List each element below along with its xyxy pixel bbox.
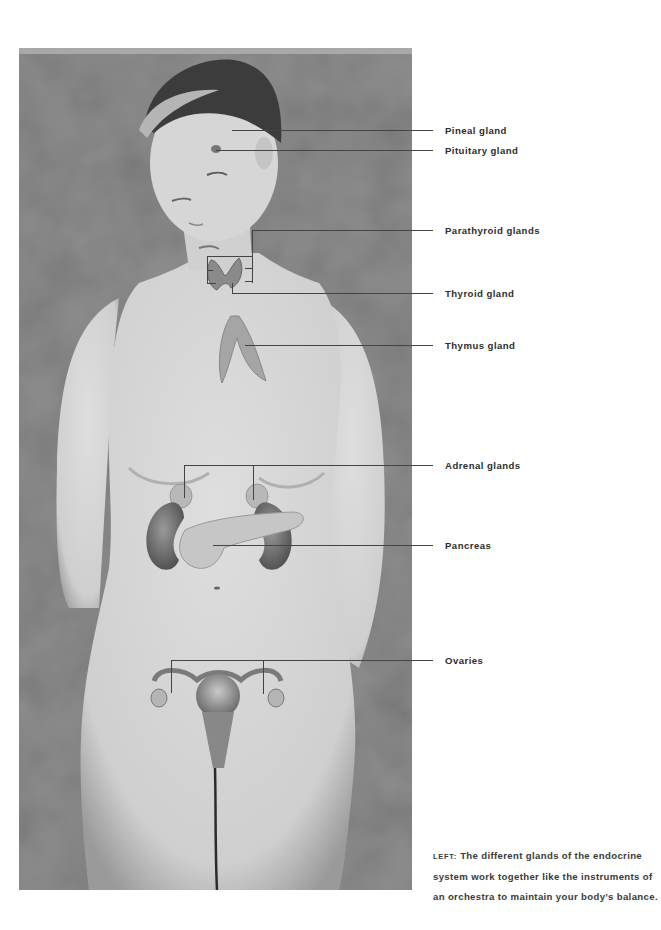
label-ovaries: Ovaries [445, 655, 483, 667]
label-thyroid-gland: Thyroid gland [445, 288, 514, 300]
caption-text: The different glands of the endocrine sy… [433, 850, 658, 902]
label-thymus-gland: Thymus gland [445, 340, 515, 352]
anatomy-photo [19, 48, 412, 890]
label-pancreas: Pancreas [445, 540, 491, 552]
figure-illustration [19, 48, 412, 890]
label-pineal-gland: Pineal gland [445, 125, 507, 137]
figure-caption: LEFT: The different glands of the endocr… [433, 846, 659, 907]
label-adrenal-glands: Adrenal glands [445, 460, 521, 472]
label-parathyroid-glands: Parathyroid glands [445, 225, 540, 237]
label-pituitary-gland: Pituitary gland [445, 145, 518, 157]
caption-lead: LEFT: [433, 852, 457, 861]
